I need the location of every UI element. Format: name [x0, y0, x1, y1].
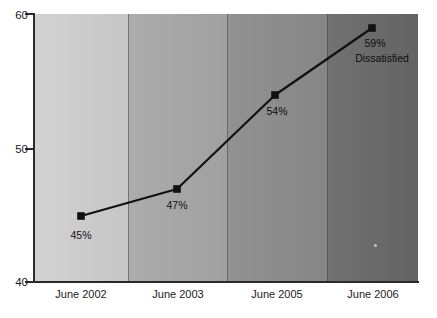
image-speck: [374, 244, 377, 247]
band-separator-2: [227, 14, 228, 281]
y-tick-label-60: 60: [2, 9, 28, 21]
background-band-june-2005: [227, 14, 327, 281]
data-label-june-2006: 59%: [364, 37, 385, 49]
x-tick-label-june-2003: June 2003: [152, 288, 203, 300]
x-tick-label-june-2005: June 2005: [251, 288, 302, 300]
data-label-june-2002: 45%: [70, 229, 91, 241]
y-tick-label-50: 50: [2, 143, 28, 155]
x-tick-label-june-2006: June 2006: [347, 288, 398, 300]
x-tick-label-june-2002: June 2002: [55, 288, 106, 300]
band-separator-1: [128, 14, 129, 281]
data-label-june-2005: 54%: [266, 105, 287, 117]
data-label-june-2003: 47%: [166, 199, 187, 211]
y-axis-tick-labels: 60 50 40: [0, 0, 28, 318]
y-tick-label-40: 40: [2, 276, 28, 288]
x-axis-line: [33, 281, 419, 283]
background-band-june-2003: [128, 14, 227, 281]
band-separator-3: [327, 14, 328, 281]
chart-page: 60 50 40 June 2002 June 2003 June 2005 J…: [0, 0, 437, 318]
annotation-dissatisfied: Dissatisfied: [355, 52, 409, 64]
